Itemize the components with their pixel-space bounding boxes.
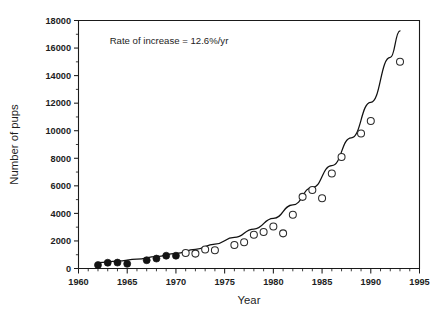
data-point-open [338, 153, 345, 160]
x-tick-label: 1970 [166, 277, 186, 287]
data-point-open [211, 247, 218, 254]
exponential-fit-curve [98, 31, 400, 263]
x-tick-label: 1980 [263, 277, 283, 287]
data-point-filled [143, 257, 150, 264]
y-tick-label: 8000 [51, 154, 71, 164]
y-tick-label: 12000 [45, 98, 71, 108]
data-point-filled [124, 260, 131, 267]
data-point-open [319, 195, 326, 202]
data-point-open [289, 211, 296, 218]
x-tick-label: 1995 [409, 277, 429, 287]
plot-frame [79, 21, 420, 269]
y-tick-label: 16000 [45, 43, 71, 53]
data-point-open [280, 230, 287, 237]
y-tick-label: 18000 [45, 16, 71, 26]
population-growth-scatter-chart: 0200040006000800010000120001400016000180… [0, 0, 442, 324]
y-tick-label: 14000 [45, 71, 71, 81]
data-point-filled [114, 259, 121, 266]
y-axis-title: Number of pups [8, 104, 20, 185]
x-tick-label: 1965 [117, 277, 137, 287]
data-point-open [192, 250, 199, 257]
data-point-open [299, 193, 306, 200]
x-tick-label: 1975 [214, 277, 234, 287]
data-point-open [182, 250, 189, 257]
data-point-open [367, 118, 374, 125]
x-tick-label: 1985 [312, 277, 332, 287]
data-point-filled [153, 255, 160, 262]
data-point-open [241, 239, 248, 246]
data-point-open [397, 58, 404, 65]
data-point-filled [94, 262, 101, 269]
data-point-open [309, 186, 316, 193]
data-point-filled [163, 252, 170, 259]
data-point-filled [172, 252, 179, 259]
x-tick-label: 1960 [68, 277, 88, 287]
y-tick-label: 2000 [51, 236, 71, 246]
data-point-open [328, 170, 335, 177]
x-tick-label: 1990 [361, 277, 381, 287]
y-tick-label: 0 [66, 264, 71, 274]
data-point-open [270, 223, 277, 230]
rate-of-increase-annotation: Rate of increase = 12.6%/yr [110, 35, 229, 46]
y-tick-label: 6000 [51, 181, 71, 191]
data-point-open [250, 231, 257, 238]
y-tick-label: 10000 [45, 126, 71, 136]
y-tick-label: 4000 [51, 209, 71, 219]
data-point-open [202, 246, 209, 253]
x-axis-title: Year [238, 294, 261, 306]
data-point-open [358, 130, 365, 137]
data-point-filled [104, 259, 111, 266]
data-point-open [260, 228, 267, 235]
data-point-open [231, 242, 238, 249]
chart-figure: 0200040006000800010000120001400016000180… [0, 0, 442, 324]
